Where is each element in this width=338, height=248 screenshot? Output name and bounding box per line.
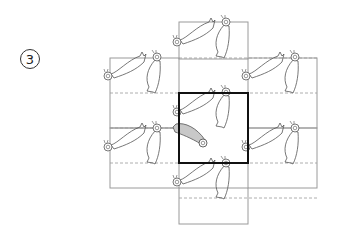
bird-motif-vertical [216,85,230,128]
bird-motif-vertical [285,121,299,164]
bird-motif-vertical [147,121,161,164]
grid-tile [179,188,248,224]
bird-motif-vertical [216,15,230,58]
bird-tessellation-grid [0,0,338,248]
grid-tile [110,128,179,188]
tessellation-diagram: 3 [0,0,338,248]
grid-tile [248,128,317,188]
bird-motif-vertical [285,50,299,93]
bird-motif-vertical [147,50,161,93]
